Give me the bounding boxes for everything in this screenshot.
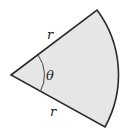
radius-label-bottom: r	[50, 104, 57, 119]
sector-diagram: r θ r	[0, 0, 122, 130]
sector-shape	[11, 10, 119, 127]
radius-label-top: r	[47, 27, 54, 42]
angle-label: θ	[46, 68, 54, 83]
